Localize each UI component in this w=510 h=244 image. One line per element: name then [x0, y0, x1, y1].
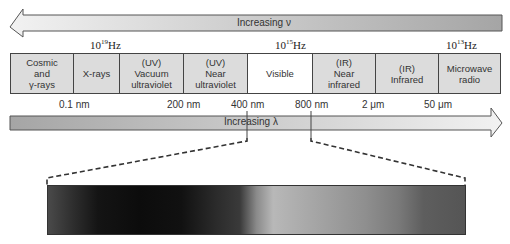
- band-cosmic-gamma: Cosmic and γ-rays: [11, 54, 74, 93]
- band-near-ir: (IR) Near infrared: [313, 54, 376, 93]
- spectrum-bands: Cosmic and γ-rays X-rays (UV) Vacuum ult…: [10, 53, 501, 94]
- band-infrared: (IR) Infrared: [376, 54, 439, 93]
- band-x-rays: X-rays: [74, 54, 120, 93]
- band-vacuum-uv: (UV) Vacuum ultraviolet: [120, 54, 184, 93]
- frequency-arrow-label: Increasing ν: [237, 17, 291, 28]
- visible-spectrum-strip: [47, 185, 466, 235]
- frequency-tick-1e19: 1019Hz: [90, 38, 121, 51]
- band-microwave-radio: Microwave radio: [439, 54, 500, 93]
- band-near-uv: (UV) Near ultraviolet: [184, 54, 248, 93]
- wavelength-arrow-label: Increasing λ: [224, 116, 278, 127]
- frequency-tick-1e13: 1013Hz: [446, 38, 477, 51]
- frequency-tick-1e15: 1015Hz: [275, 38, 306, 51]
- band-visible: Visible: [248, 54, 313, 93]
